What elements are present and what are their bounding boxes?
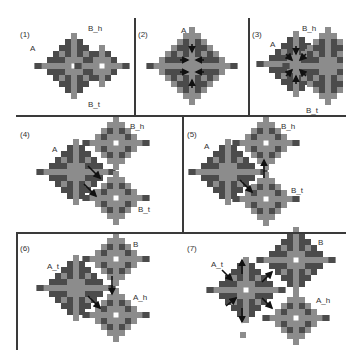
panel-label-6: (6) [20, 244, 30, 253]
node-label: B [133, 240, 138, 249]
node-label: B_h [130, 122, 144, 131]
node-label: A_t [47, 262, 59, 271]
node-label: B [318, 238, 323, 247]
node-label: B_h [281, 122, 295, 131]
panel-7 [206, 227, 335, 345]
panel-label-4: (4) [20, 130, 30, 139]
node-label: B_h [88, 24, 102, 33]
panel-3 [256, 27, 362, 105]
panel-label-3: (3) [252, 30, 262, 39]
node-label: A_h [316, 296, 330, 305]
diamond-cluster [146, 27, 237, 105]
panel-5 [188, 116, 299, 226]
divider-line [134, 18, 136, 115]
node-label: B_t [138, 205, 150, 214]
node-label: A [270, 40, 275, 49]
node-label: B_h [302, 24, 316, 33]
panel-label-5: (5) [187, 130, 197, 139]
node-label: A_t [211, 260, 223, 269]
diamond-lattice-drawing [0, 0, 362, 364]
panel-label-1: (1) [20, 30, 30, 39]
divider-line [16, 115, 346, 117]
node-label: B_t [291, 186, 303, 195]
node-label: B_t [88, 100, 100, 109]
node-label: A [181, 26, 186, 35]
panel-1 [34, 33, 129, 99]
divider-line [16, 232, 18, 350]
panel-2 [146, 27, 237, 105]
divider-line [182, 115, 184, 232]
node-label: A_h [133, 293, 147, 302]
node-label: A [204, 142, 209, 151]
node-label: A [30, 44, 35, 53]
panel-label-7: (7) [187, 244, 197, 253]
divider-line [248, 18, 250, 115]
panel-label-2: (2) [138, 30, 148, 39]
panel-4 [36, 116, 149, 225]
node-label: B_t [306, 106, 318, 115]
node-label: A [52, 145, 57, 154]
divider-line [16, 232, 346, 234]
